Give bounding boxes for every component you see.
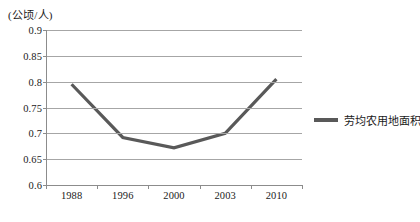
x-axis-tick-mark: [251, 185, 252, 189]
gridline: [46, 159, 302, 160]
y-axis-tick-mark: [43, 56, 47, 57]
gridline: [46, 56, 302, 57]
gridline: [46, 82, 302, 83]
x-axis-tick-label: 1988: [61, 190, 82, 201]
legend-label: 劳均农用地面积: [344, 112, 420, 128]
y-axis-tick-label: 0.9: [2, 25, 42, 36]
x-axis-tick-mark: [200, 185, 201, 189]
y-axis-tick-label-group: 0.90.850.80.750.70.650.6: [0, 30, 42, 185]
x-axis-tick-mark: [97, 185, 98, 189]
gridline: [46, 30, 302, 31]
legend: 劳均农用地面积: [314, 112, 420, 128]
y-axis-tick-mark: [43, 82, 47, 83]
y-axis-tick-mark: [43, 108, 47, 109]
series-line-labor-farmland-area: [72, 79, 277, 148]
x-axis-tick-mark: [302, 185, 303, 189]
y-axis-tick-label: 0.7: [2, 128, 42, 139]
x-axis-tick-mark: [148, 185, 149, 189]
y-axis-tick-mark: [43, 30, 47, 31]
y-axis-tick-label: 0.8: [2, 76, 42, 87]
gridline: [46, 133, 302, 134]
plot-area: [46, 30, 302, 185]
x-axis-tick-mark: [46, 185, 47, 189]
y-axis-tick-label: 0.75: [2, 102, 42, 113]
gridline: [46, 185, 302, 186]
y-axis-tick-label: 0.85: [2, 50, 42, 61]
legend-color-swatch: [314, 118, 338, 122]
y-axis-unit-title: (公顷/人): [8, 6, 53, 22]
x-axis-tick-label: 1996: [112, 190, 133, 201]
x-axis-tick-label: 2003: [214, 190, 235, 201]
chart-container: (公顷/人) 0.90.850.80.750.70.650.6 劳均农用地面积 …: [0, 0, 420, 222]
y-axis-tick-label: 0.65: [2, 154, 42, 165]
y-axis-tick-mark: [43, 159, 47, 160]
x-axis-tick-label: 2010: [266, 190, 287, 201]
x-axis-tick-label: 2000: [163, 190, 184, 201]
y-axis-tick-label: 0.6: [2, 180, 42, 191]
y-axis-tick-mark: [43, 133, 47, 134]
gridline: [46, 108, 302, 109]
